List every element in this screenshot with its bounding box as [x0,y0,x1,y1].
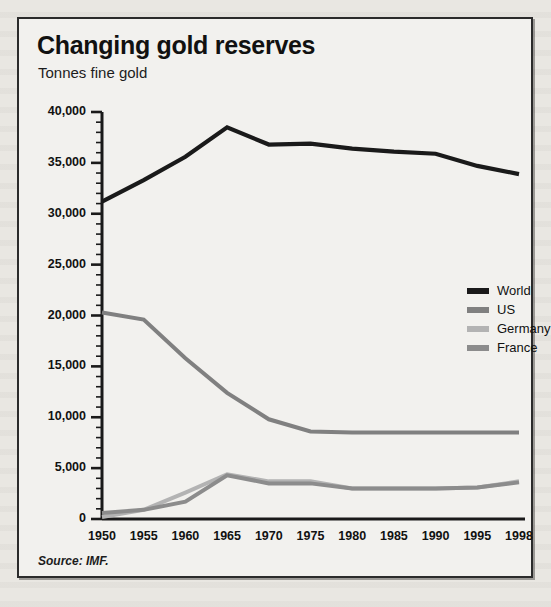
legend-item-germany: Germany [467,319,550,338]
legend-item-label: World [497,283,531,298]
chart-axes [102,112,525,519]
chart-plot-area [19,19,531,576]
series-line-world [102,127,519,201]
y-axis-tick-label: 30,000 [19,206,86,220]
y-axis-tick-label: 40,000 [19,104,86,118]
legend-item-label: US [497,302,515,317]
y-axis-tick-label: 20,000 [19,308,86,322]
series-line-us [102,312,519,432]
chart-legend: WorldUSGermanyFrance [467,281,550,357]
legend-item-label: France [497,340,537,355]
y-axis-ticks [91,112,102,519]
line-chart-svg [19,19,531,576]
chart-figure-frame: Changing gold reserves Tonnes fine gold … [17,17,533,578]
y-axis-tick-label: 5,000 [19,460,86,474]
legend-item-label: Germany [497,321,550,336]
y-axis-tick-label: 25,000 [19,257,86,271]
y-axis-tick-label: 15,000 [19,358,86,372]
legend-swatch-icon [467,288,489,294]
legend-item-world: World [467,281,550,300]
legend-swatch-icon [467,307,489,313]
legend-item-france: France [467,338,550,357]
series-line-germany [102,474,519,517]
source-note: Source: IMF. [38,554,109,568]
y-axis-tick-label: 0 [19,511,86,525]
x-axis-tick-label: 1998 [495,529,543,543]
legend-swatch-icon [467,326,489,332]
legend-item-us: US [467,300,550,319]
legend-swatch-icon [467,345,489,351]
y-axis-tick-label: 10,000 [19,409,86,423]
y-axis-tick-label: 35,000 [19,155,86,169]
